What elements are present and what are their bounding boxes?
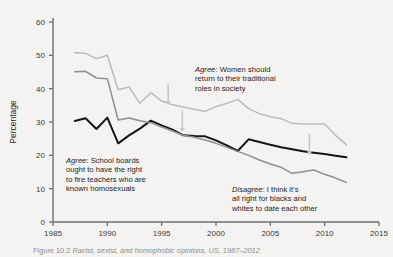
x-tick-label: 2010 <box>316 229 334 238</box>
annotation-teachers-lead: Agree <box>66 156 86 165</box>
figure-caption: Figure 10.2 Racist, sexist, and homophob… <box>33 246 260 256</box>
y-tick-label: 0 <box>41 218 46 227</box>
annotation-women-traditional-roles: Agree: Women should return to their trad… <box>195 55 276 93</box>
y-tick-label: 50 <box>36 51 45 60</box>
axis-group <box>49 18 379 226</box>
y-tick-label: 20 <box>36 151 45 160</box>
annotation-fire-gay-teachers: Agree: School boards ought to have the r… <box>66 146 146 194</box>
y-tick-label: 30 <box>36 118 45 127</box>
annotation-interracial-dating: Disagree: I think it's all right for bla… <box>232 175 317 213</box>
y-tick-label: 60 <box>36 18 45 27</box>
figure-caption-text: Racist, sexist, and homophobic opinions,… <box>72 246 259 255</box>
figure-number: Figure 10.2 <box>33 246 70 255</box>
annotation-women-lead: Agree <box>195 65 215 74</box>
y-tick-label: 40 <box>36 85 45 94</box>
chart-plot: 0102030405060198519901995200020052010201… <box>0 0 393 257</box>
x-tick-label: 1995 <box>153 229 171 238</box>
arrow-teachers-head <box>180 128 185 132</box>
annotation-arrow-group <box>166 84 312 156</box>
x-tick-label: 1985 <box>44 229 62 238</box>
y-axis-title: Percentage <box>8 100 18 144</box>
annotation-interracial-lead: Disagree <box>232 185 263 194</box>
axis-label-group: 0102030405060198519901995200020052010201… <box>8 18 388 238</box>
x-tick-label: 2015 <box>370 229 388 238</box>
x-tick-label: 1990 <box>98 229 116 238</box>
y-tick-label: 10 <box>36 185 45 194</box>
x-tick-label: 2000 <box>207 229 225 238</box>
x-tick-label: 2005 <box>261 229 279 238</box>
figure-container: 0102030405060198519901995200020052010201… <box>0 0 393 257</box>
